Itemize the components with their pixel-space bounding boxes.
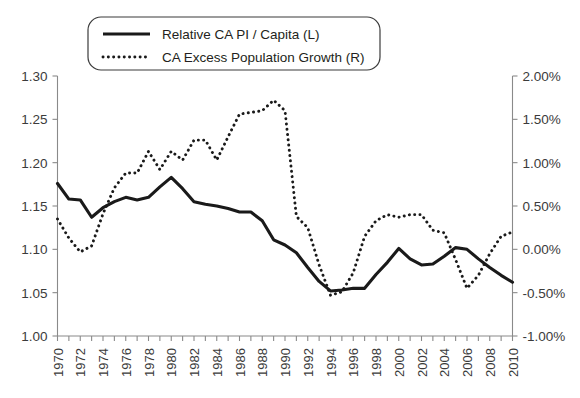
x-axis-tick-label: 1976 (119, 348, 134, 377)
series-line-solid (58, 177, 513, 291)
x-axis-tick-label: 1994 (324, 348, 339, 377)
x-axis-tick-label: 1996 (346, 348, 361, 377)
right-axis-tick-label: 1.00% (523, 156, 561, 171)
legend-item-label: Relative CA PI / Capita (L) (162, 27, 320, 42)
x-axis-tick-label: 1984 (210, 348, 225, 377)
line-chart: 1.001.051.101.151.201.251.30 -1.00%-0.50… (0, 0, 580, 398)
x-axis-tick-label: 1988 (255, 348, 270, 377)
legend-item-label: CA Excess Population Growth (R) (162, 50, 365, 65)
x-axis-tick-label: 2010 (506, 348, 521, 377)
x-axis-tick-label: 1978 (142, 348, 157, 377)
x-axis-tick-label: 2008 (483, 348, 498, 377)
right-axis-tick-label: 0.50% (523, 199, 561, 214)
left-axis-tick-label: 1.15 (21, 199, 47, 214)
x-axis-tick-label: 1992 (301, 348, 316, 377)
x-axis-tick-label: 1982 (187, 348, 202, 377)
right-axis-tick-label: 0.00% (523, 242, 561, 257)
x-axis-tick-label: 1972 (73, 348, 88, 377)
right-axis-tick-label: -0.50% (523, 286, 566, 301)
x-axis-tick-label: 2006 (460, 348, 475, 377)
x-axis-tick-label: 1970 (51, 348, 66, 377)
chart-container: 1.001.051.101.151.201.251.30 -1.00%-0.50… (0, 0, 580, 398)
left-axis-tick-label: 1.30 (21, 69, 47, 84)
x-axis-tick-label: 1986 (233, 348, 248, 377)
right-axis-tick-label: 2.00% (523, 69, 561, 84)
right-axis-tick-label: -1.00% (523, 329, 566, 344)
x-axis: 1970197219741976197819801982198419861988… (51, 336, 521, 377)
left-axis-tick-label: 1.00 (21, 329, 47, 344)
x-axis-tick-label: 2000 (392, 348, 407, 377)
x-axis-tick-label: 1998 (369, 348, 384, 377)
left-axis: 1.001.051.101.151.201.251.30 (21, 69, 57, 344)
x-axis-tick-label: 1974 (96, 348, 111, 377)
left-axis-tick-label: 1.20 (21, 156, 47, 171)
left-axis-tick-label: 1.05 (21, 286, 47, 301)
right-axis-tick-label: 1.50% (523, 112, 561, 127)
x-axis-tick-label: 2002 (415, 348, 430, 377)
chart-legend: Relative CA PI / Capita (L)CA Excess Pop… (88, 17, 380, 70)
left-axis-tick-label: 1.25 (21, 112, 47, 127)
right-axis: -1.00%-0.50%0.00%0.50%1.00%1.50%2.00% (513, 69, 566, 344)
x-axis-tick-label: 1990 (278, 348, 293, 377)
x-axis-tick-label: 1980 (164, 348, 179, 377)
plot-area-series (58, 100, 513, 295)
x-axis-tick-label: 2004 (437, 348, 452, 377)
left-axis-tick-label: 1.10 (21, 242, 47, 257)
